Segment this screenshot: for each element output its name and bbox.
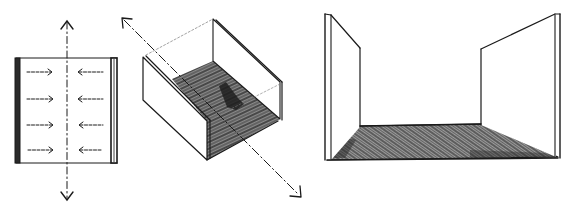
panel-perspective-walls-floor <box>325 14 560 160</box>
left-wall-top-cap <box>325 14 331 15</box>
sketch-svg <box>0 0 576 213</box>
ghost-edge-top <box>146 19 213 55</box>
diagram-canvas: Three hand-drawn sketches illustrating s… <box>0 0 576 213</box>
left-arrow-group <box>27 69 53 153</box>
left-wall <box>15 58 20 163</box>
panel-isometric-u-channel <box>122 18 301 197</box>
panel-plan-parallel-walls <box>15 21 117 200</box>
right-arrow-group <box>78 69 103 153</box>
